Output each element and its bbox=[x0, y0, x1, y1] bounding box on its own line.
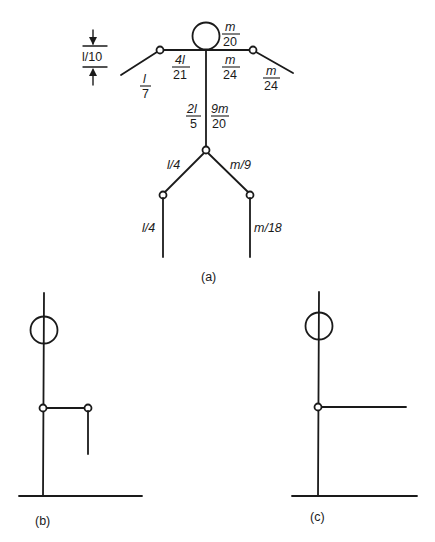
forearm-right-den: 24 bbox=[264, 79, 278, 93]
body-line bbox=[43, 293, 44, 496]
head-mass-num: m bbox=[225, 20, 235, 34]
arrow-up-icon bbox=[89, 68, 97, 76]
hip-joint bbox=[40, 405, 47, 412]
upper-arm-right-den: 24 bbox=[223, 68, 237, 82]
head-mass-den: 20 bbox=[223, 35, 237, 49]
torso-mass-den: 20 bbox=[212, 117, 226, 131]
dimension-label: l/10 bbox=[82, 50, 102, 64]
shank-length-label: l/4 bbox=[142, 221, 155, 235]
right-elbow-joint bbox=[250, 47, 257, 54]
upper-arm-left-num: 4l bbox=[175, 53, 186, 67]
thigh-length-label: l/4 bbox=[167, 158, 180, 172]
body-line bbox=[318, 292, 319, 496]
forearm-right-num: m bbox=[266, 64, 276, 78]
figure-c-stick-model bbox=[292, 292, 417, 496]
upper-arm-right-num: m bbox=[225, 53, 235, 67]
biomechanics-diagram: l/10 m 20 4l 21 l 7 m 24 m 24 2l 5 9m 20… bbox=[0, 0, 435, 542]
head-circle bbox=[193, 23, 220, 50]
torso-mass-num: 9m bbox=[211, 102, 228, 116]
hip-joint bbox=[315, 404, 322, 411]
left-forearm bbox=[121, 52, 157, 75]
forearm-left-den: 7 bbox=[142, 87, 149, 101]
torso-length-den: 5 bbox=[190, 117, 197, 131]
torso-length-num: 2l bbox=[186, 102, 198, 116]
thigh-mass-label: m/9 bbox=[230, 158, 251, 172]
left-elbow-joint bbox=[157, 47, 164, 54]
figure-c-caption: (c) bbox=[310, 510, 325, 524]
figure-a-caption: (a) bbox=[201, 270, 216, 284]
forearm-left-num: l bbox=[143, 72, 147, 86]
hip-joint bbox=[203, 147, 210, 154]
shank-mass-label: m/18 bbox=[254, 221, 282, 235]
figure-b-caption: (b) bbox=[35, 514, 50, 528]
upper-arm-left-den: 21 bbox=[173, 68, 187, 82]
arrow-down-icon bbox=[89, 37, 97, 45]
figure-b-stick-model bbox=[19, 293, 142, 496]
